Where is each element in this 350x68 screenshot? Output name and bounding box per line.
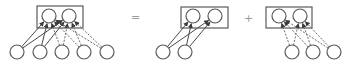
solid-edge [189, 22, 209, 46]
top-node [272, 9, 286, 23]
top-node [293, 9, 307, 23]
solid-edge [187, 24, 192, 45]
solid-edge [23, 21, 63, 48]
top-node [186, 9, 200, 23]
panel-solid-part [156, 7, 228, 59]
dashed-edge [305, 22, 329, 47]
diagram-canvas: = + [0, 0, 350, 68]
bottom-node [77, 45, 91, 59]
bottom-node [285, 45, 299, 59]
solid-edge [22, 22, 44, 47]
solid-edge [167, 22, 187, 46]
plus-sign: + [244, 12, 253, 25]
bottom-node [306, 45, 320, 59]
dashed-edge [55, 22, 80, 47]
panel-combined [10, 6, 114, 59]
top-node [42, 9, 56, 23]
bottom-node [156, 45, 170, 59]
top-node [62, 9, 76, 23]
dashed-edge [282, 24, 290, 46]
bottom-node [178, 45, 192, 59]
dashed-edge [286, 20, 328, 48]
diagram-panels [10, 6, 341, 59]
bottom-node [55, 45, 69, 59]
dashed-edge [72, 23, 81, 45]
equals-sign: = [131, 11, 140, 24]
bottom-node [10, 45, 24, 59]
bottom-node [100, 45, 114, 59]
bottom-node [33, 45, 47, 59]
top-node [208, 9, 222, 23]
bottom-node [327, 45, 341, 59]
panel-dashed-part [266, 7, 341, 59]
